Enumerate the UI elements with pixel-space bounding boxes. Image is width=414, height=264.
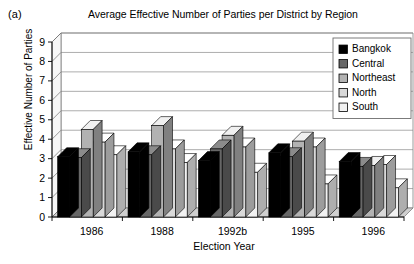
y-tick-label: 7: [39, 74, 45, 86]
legend-item-south[interactable]: South: [339, 101, 378, 112]
y-tick-label: 3: [39, 152, 45, 164]
bar: [128, 143, 149, 217]
x-category-label: 1996: [362, 225, 386, 237]
legend-item-central[interactable]: Central: [339, 58, 384, 69]
legend-label: Bangkok: [352, 43, 392, 54]
legend-item-north[interactable]: North: [339, 87, 376, 98]
bar: [58, 148, 79, 217]
legend-label: Central: [352, 58, 384, 69]
x-category-label: 1986: [80, 225, 104, 237]
y-tick-label: 1: [39, 191, 45, 203]
legend-label: Northeast: [352, 72, 396, 83]
y-tick-label: 6: [39, 94, 45, 106]
legend-item-bangkok[interactable]: Bangkok: [339, 43, 392, 54]
y-tick-label: 9: [39, 36, 45, 48]
figure-panel: (a) Average Effective Number of Parties …: [0, 0, 414, 264]
legend-item-northeast[interactable]: Northeast: [339, 72, 396, 83]
x-category-label: 1992b: [218, 225, 247, 237]
x-category-label: 1988: [150, 225, 174, 237]
y-tick-label: 2: [39, 172, 45, 184]
bar: [339, 153, 360, 217]
y-tick-label: 4: [39, 133, 45, 145]
y-tick-label: 8: [39, 55, 45, 67]
x-category-label: 1995: [291, 225, 315, 237]
legend-label: South: [352, 101, 378, 112]
legend: BangkokCentralNortheastNorthSouth: [333, 38, 411, 119]
bar-chart-plot: 0123456789198619881992b19951996BangkokCe…: [0, 0, 414, 264]
legend-label: North: [352, 87, 376, 98]
bar: [269, 144, 290, 217]
bar: [198, 152, 219, 217]
y-tick-label: 0: [39, 211, 45, 223]
y-tick-label: 5: [39, 113, 45, 125]
